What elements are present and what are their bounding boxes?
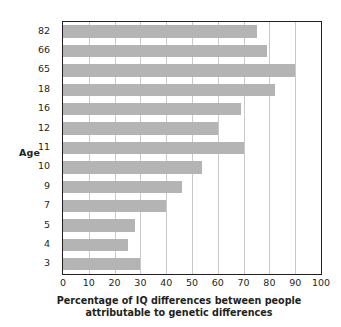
bar [63,142,244,154]
y-tick-label: 11 [38,142,50,152]
bar-row [63,200,321,212]
bar [63,258,140,270]
x-tick-label: 50 [186,278,198,288]
y-tick-label: 12 [38,123,50,133]
bar [63,181,182,193]
bar-row [63,45,321,57]
y-tick-label: 3 [44,258,50,268]
bars-layer [63,22,321,274]
y-tick-label: 5 [44,220,50,230]
bar-row [63,25,321,37]
bar-row [63,64,321,76]
x-tick-label: 80 [263,278,275,288]
bar [63,239,128,251]
x-tick-label: 40 [160,278,172,288]
x-tick-label: 60 [212,278,224,288]
bar-row [63,142,321,154]
x-tick-label: 0 [60,278,66,288]
bar-row [63,258,321,270]
bar [63,219,135,231]
x-axis-title-line-1: Percentage of IQ differences between peo… [34,295,324,307]
x-tick-label: 100 [312,278,330,288]
y-tick-label: 82 [38,26,50,36]
y-tick-label: 4 [44,239,50,249]
bar-row [63,219,321,231]
bar [63,200,166,212]
x-tick-label: 70 [238,278,250,288]
bar-row [63,181,321,193]
bar-row [63,161,321,173]
bar-chart: Age 826665181612111097543 01020304050607… [0,0,341,327]
y-tick-label: 7 [44,200,50,210]
bar [63,84,275,96]
x-axis-title-line-2: attributable to genetic differences [34,307,324,319]
x-axis-title: Percentage of IQ differences between peo… [34,295,324,320]
y-tick-label: 18 [38,84,50,94]
bar [63,103,241,115]
bar [63,64,295,76]
x-tick-label: 30 [134,278,146,288]
x-tick-label: 10 [83,278,95,288]
y-tick-label: 9 [44,181,50,191]
plot-area [62,21,322,275]
x-tick-label: 90 [289,278,301,288]
bar-row [63,122,321,134]
y-tick-label: 66 [38,45,50,55]
bar [63,122,218,134]
y-axis-tick-labels: 826665181612111097543 [0,21,58,275]
bar-row [63,103,321,115]
x-axis-tick-labels: 0102030405060708090100 [0,278,341,292]
y-tick-label: 16 [38,103,50,113]
bar-row [63,239,321,251]
y-tick-label: 10 [38,161,50,171]
bar [63,161,202,173]
x-tick-label: 20 [109,278,121,288]
bar [63,45,267,57]
bar [63,25,257,37]
bar-row [63,84,321,96]
y-tick-label: 65 [38,64,50,74]
